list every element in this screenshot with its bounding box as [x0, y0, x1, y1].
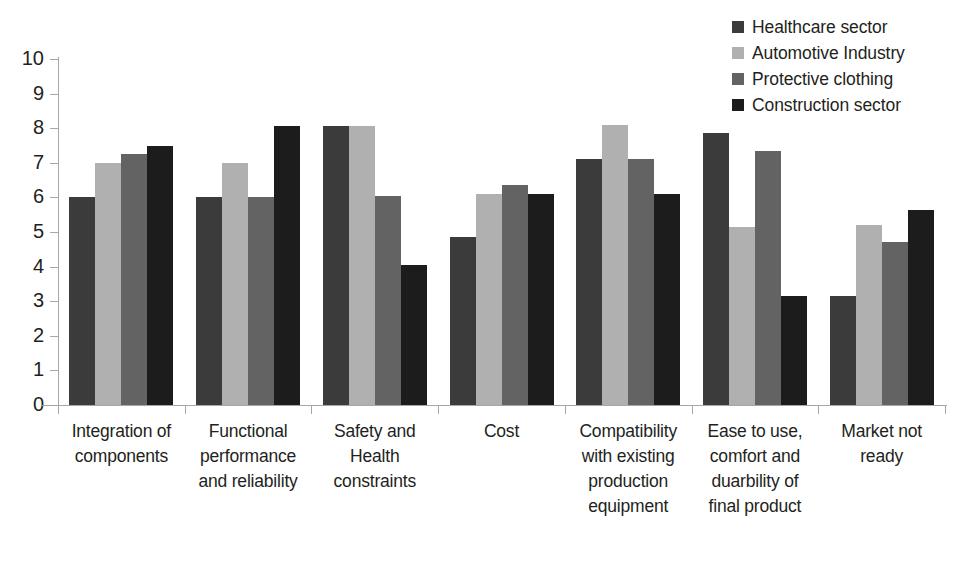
bar [628, 159, 654, 405]
bar [576, 159, 602, 405]
x-axis-category-label-line: with existing [559, 444, 698, 469]
y-axis-tick-label: 6 [0, 185, 44, 208]
bar [95, 163, 121, 405]
x-axis-labels: Integration ofcomponentsFunctionalperfor… [0, 419, 977, 559]
x-axis-category-label-line: equipment [559, 494, 698, 519]
x-axis-category-label-line: Ease to use, [686, 419, 825, 444]
bar [856, 225, 882, 405]
bar [248, 197, 274, 405]
bar [729, 227, 755, 405]
bar [703, 133, 729, 405]
x-axis-category-label-line: Safety and [305, 419, 444, 444]
bar [222, 163, 248, 405]
x-axis-category-label-line: Market not [812, 419, 951, 444]
bar [401, 265, 427, 405]
x-axis-category-label-line: Functional [179, 419, 318, 444]
x-axis-tick [438, 405, 439, 414]
bar [349, 126, 375, 405]
bar [450, 237, 476, 405]
x-axis-category-label: Integration ofcomponents [52, 419, 191, 469]
x-axis-tick [945, 405, 946, 414]
y-axis-tick-label: 8 [0, 116, 44, 139]
y-axis-tick-label: 5 [0, 220, 44, 243]
bar [69, 197, 95, 405]
x-axis-category-label-line: Compatibility [559, 419, 698, 444]
x-axis-category-label-line: comfort and [686, 444, 825, 469]
x-axis-tick [185, 405, 186, 414]
bar [121, 154, 147, 405]
y-axis-tick-label: 0 [0, 393, 44, 416]
x-axis-category-label-line: constraints [305, 469, 444, 494]
x-axis-category-label-line: performance [179, 444, 318, 469]
x-axis-category-label-line: Cost [432, 419, 571, 444]
x-axis-category-label: Cost [432, 419, 571, 444]
x-axis-category-label-line: ready [812, 444, 951, 469]
x-axis-category-label-line: final product [686, 494, 825, 519]
bar [196, 197, 222, 405]
bar [274, 126, 300, 405]
x-axis-category-label: Safety andHealthconstraints [305, 419, 444, 494]
bar [755, 151, 781, 405]
bar [147, 146, 173, 406]
y-axis-tick-label: 7 [0, 151, 44, 174]
bar [654, 194, 680, 405]
x-axis-line [42, 405, 947, 406]
x-axis-category-label: Market notready [812, 419, 951, 469]
y-axis-tick-label: 9 [0, 82, 44, 105]
x-axis-category-label-line: Health [305, 444, 444, 469]
x-axis-category-label-line: components [52, 444, 191, 469]
x-axis-category-label-line: production [559, 469, 698, 494]
bar-chart: Healthcare sectorAutomotive IndustryProt… [0, 0, 977, 563]
x-axis-tick [58, 405, 59, 414]
bar [830, 296, 856, 405]
x-axis-tick [818, 405, 819, 414]
bar [476, 194, 502, 405]
x-axis-tick [311, 405, 312, 414]
bar [323, 126, 349, 405]
x-axis-category-label: Functionalperformanceand reliability [179, 419, 318, 494]
legend-item-label: Healthcare sector [752, 14, 887, 40]
x-axis-tick [692, 405, 693, 414]
x-axis-tick [565, 405, 566, 414]
y-axis-tick-label: 10 [0, 47, 44, 70]
y-axis-tick-label: 4 [0, 255, 44, 278]
bar [375, 196, 401, 405]
x-axis-category-label: Ease to use,comfort andduarbility offina… [686, 419, 825, 519]
legend-swatch-icon [732, 47, 744, 59]
x-axis-category-label-line: Integration of [52, 419, 191, 444]
bar [882, 242, 908, 405]
bar [908, 210, 934, 405]
y-axis-tick-label: 3 [0, 289, 44, 312]
x-axis-category-label-line: duarbility of [686, 469, 825, 494]
bar [602, 125, 628, 405]
y-axis-tick-label: 2 [0, 324, 44, 347]
bar [502, 185, 528, 405]
x-axis-category-label-line: and reliability [179, 469, 318, 494]
legend-item[interactable]: Healthcare sector [732, 14, 972, 40]
legend-swatch-icon [732, 21, 744, 33]
bar [781, 296, 807, 405]
plot-area [58, 59, 945, 405]
x-axis-category-label: Compatibilitywith existingproductionequi… [559, 419, 698, 519]
bar [528, 194, 554, 405]
y-axis-tick-label: 1 [0, 358, 44, 381]
